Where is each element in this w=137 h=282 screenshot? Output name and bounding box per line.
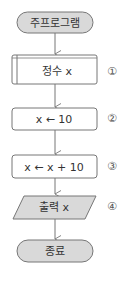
flowchart: 주프로그램 정수 x ① x ← 10 ② x ← x + 10 ③ 출력 x … xyxy=(0,0,137,282)
declare-label: 정수 x xyxy=(42,65,72,78)
start-terminal: 주프로그램 xyxy=(17,12,93,33)
step-number-3: ③ xyxy=(107,160,117,173)
declare-box: 정수 x xyxy=(12,55,97,84)
step-number-4: ④ xyxy=(107,200,117,213)
step-number-2: ② xyxy=(107,112,117,125)
assign2-box: x ← x + 10 xyxy=(12,155,97,178)
output-label: 출력 x xyxy=(39,201,69,214)
assign1-label: x ← 10 xyxy=(36,113,73,126)
assign2-label: x ← x + 10 xyxy=(24,161,83,174)
step-number-1: ① xyxy=(107,65,117,78)
assign1-box: x ← 10 xyxy=(12,108,97,130)
end-terminal: 종료 xyxy=(17,240,93,262)
end-label: 종료 xyxy=(45,245,65,258)
start-label: 주프로그램 xyxy=(30,17,80,30)
output-box: 출력 x xyxy=(13,196,96,219)
